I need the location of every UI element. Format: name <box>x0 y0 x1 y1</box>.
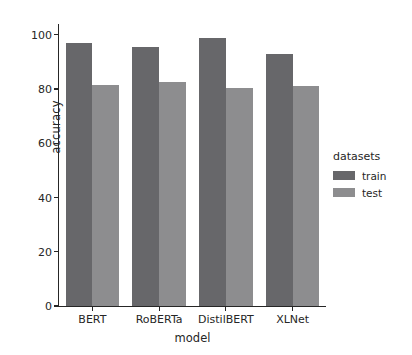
bar-test-bert <box>92 85 119 306</box>
bar-test-roberta <box>159 82 186 306</box>
legend-entries: traintest <box>333 168 411 200</box>
x-tick-mark <box>159 306 160 311</box>
bar-test-xlnet <box>293 86 320 306</box>
bar-group <box>266 24 319 306</box>
bar-group <box>199 24 252 306</box>
bar-train-bert <box>66 43 93 306</box>
x-tick-label: DistilBERT <box>198 313 254 326</box>
legend: datasets traintest <box>333 150 411 202</box>
bar-train-distilbert <box>199 38 226 306</box>
bar-group <box>132 24 185 306</box>
y-tick-label: 40 <box>24 191 52 204</box>
bar-test-distilbert <box>226 88 253 306</box>
x-tick-label: RoBERTa <box>136 313 183 326</box>
y-axis-tick-labels: 020406080100 <box>22 0 52 355</box>
x-tick-label: XLNet <box>276 313 309 326</box>
legend-item-test: test <box>333 185 411 200</box>
y-tick-label: 60 <box>24 137 52 150</box>
legend-item-train: train <box>333 168 411 183</box>
x-axis-label: model <box>59 331 326 345</box>
y-tick-label: 20 <box>24 245 52 258</box>
x-tick-mark <box>92 306 93 311</box>
x-tick-label: BERT <box>78 313 106 326</box>
y-tick-label: 100 <box>24 28 52 41</box>
x-axis-tick-labels: BERTRoBERTaDistilBERTXLNet <box>59 313 326 329</box>
y-tick-label: 0 <box>24 300 52 313</box>
legend-title: datasets <box>333 150 411 163</box>
legend-label-test: test <box>362 187 382 199</box>
bar-train-xlnet <box>266 54 293 306</box>
bar-chart-figure: accuracy 020406080100 BERTRoBERTaDistilB… <box>0 0 412 355</box>
bar-train-roberta <box>132 47 159 306</box>
legend-label-train: train <box>362 170 386 182</box>
y-tick-label: 80 <box>24 83 52 96</box>
bar-group <box>66 24 119 306</box>
x-tick-mark <box>225 306 226 311</box>
x-tick-mark <box>292 306 293 311</box>
x-axis-tick-marks <box>59 306 326 312</box>
legend-swatch-test <box>333 188 355 197</box>
legend-swatch-train <box>333 171 355 180</box>
plot-area <box>59 24 326 306</box>
